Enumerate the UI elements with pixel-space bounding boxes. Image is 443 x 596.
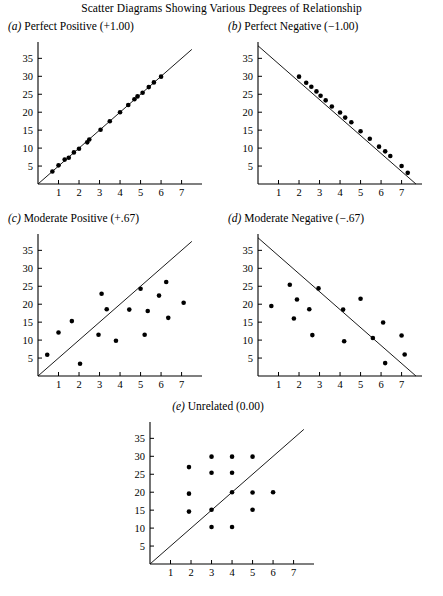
x-tick-label: 6: [158, 379, 163, 390]
reference-line: [150, 429, 304, 564]
data-point: [157, 293, 162, 298]
data-point: [118, 110, 123, 115]
x-tick-label: 2: [76, 379, 81, 390]
data-point: [187, 491, 192, 496]
x-tick-label: 1: [276, 187, 281, 198]
y-tick-label: 15: [23, 317, 34, 328]
y-tick-label: 25: [243, 89, 254, 100]
scatter-plot-b: 12345675101520253035: [228, 32, 424, 202]
data-point: [187, 509, 192, 514]
data-point: [381, 320, 386, 325]
x-tick-label: 6: [158, 187, 163, 198]
data-point: [209, 525, 214, 530]
data-point: [388, 154, 393, 159]
y-tick-label: 15: [243, 317, 254, 328]
reference-line: [38, 49, 192, 184]
data-point: [56, 330, 61, 335]
data-point: [342, 339, 347, 344]
y-tick-label: 20: [243, 107, 254, 118]
x-tick-label: 5: [358, 379, 363, 390]
data-point: [269, 304, 274, 309]
data-point: [159, 74, 164, 79]
data-point: [383, 361, 388, 366]
panel-label-c: (c) Moderate Positive (+.67): [8, 212, 204, 224]
data-point: [66, 155, 71, 160]
data-point: [107, 119, 112, 124]
x-tick-label: 4: [117, 379, 123, 390]
panel-letter-e: (e): [172, 400, 185, 412]
scatter-plot-e: 12345675101520253035: [120, 412, 316, 582]
x-tick-label: 7: [179, 187, 184, 198]
y-tick-label: 35: [23, 245, 34, 256]
data-point: [50, 169, 55, 174]
y-tick-label: 30: [243, 71, 254, 82]
x-tick-label: 2: [296, 187, 301, 198]
data-point: [309, 84, 314, 89]
panel-label-e: (e) Unrelated (0.00): [120, 400, 316, 412]
data-point: [166, 316, 171, 321]
data-point: [250, 490, 255, 495]
y-tick-label: 20: [135, 487, 146, 498]
y-tick-label: 25: [135, 469, 146, 480]
y-tick-label: 15: [135, 505, 146, 516]
x-tick-label: 4: [337, 379, 343, 390]
data-point: [45, 353, 50, 358]
data-point: [377, 144, 382, 149]
data-point: [140, 91, 145, 96]
y-tick-label: 5: [140, 541, 145, 552]
x-tick-label: 3: [97, 187, 102, 198]
y-tick-label: 20: [23, 299, 34, 310]
data-point: [338, 110, 343, 115]
data-point: [230, 525, 235, 530]
y-tick-label: 35: [135, 433, 146, 444]
data-point: [330, 104, 335, 109]
x-tick-label: 7: [291, 567, 296, 578]
scatter-svg: 12345675101520253035: [228, 32, 424, 202]
data-point: [230, 454, 235, 459]
panel-label-d: (d) Moderate Negative (−.67): [228, 212, 424, 224]
panel-label-a: (a) Perfect Positive (+1.00): [8, 20, 204, 32]
x-tick-label: 6: [378, 379, 383, 390]
scatter-svg: 12345675101520253035: [120, 412, 316, 582]
y-tick-label: 25: [23, 89, 34, 100]
data-point: [358, 129, 363, 134]
data-point: [310, 333, 315, 338]
data-point: [142, 332, 147, 337]
data-point: [349, 120, 354, 125]
x-tick-label: 3: [97, 379, 102, 390]
data-point: [367, 136, 372, 141]
data-point: [297, 74, 302, 79]
y-tick-label: 35: [243, 245, 254, 256]
data-point: [307, 307, 312, 312]
panel-moderate-positive: (c) Moderate Positive (+.67) 12345675101…: [8, 212, 204, 394]
data-point: [323, 98, 328, 103]
x-tick-label: 7: [399, 379, 404, 390]
panel-moderate-negative: (d) Moderate Negative (−.67) 12345675101…: [228, 212, 424, 394]
x-tick-label: 3: [317, 187, 322, 198]
reference-line: [258, 46, 416, 184]
x-tick-label: 2: [188, 567, 193, 578]
y-tick-label: 20: [243, 299, 254, 310]
panel-letter-c: (c): [8, 212, 21, 224]
data-point: [292, 316, 297, 321]
x-tick-label: 1: [56, 187, 61, 198]
y-tick-label: 25: [243, 281, 254, 292]
panel-title-c: Moderate Positive (+.67): [24, 212, 139, 224]
y-tick-label: 5: [248, 161, 253, 172]
data-point: [98, 127, 103, 132]
panel-perfect-positive: (a) Perfect Positive (+1.00) 12345675101…: [8, 20, 204, 202]
x-tick-label: 5: [250, 567, 255, 578]
data-point: [316, 286, 321, 291]
y-tick-label: 15: [243, 125, 254, 136]
data-point: [127, 307, 132, 312]
x-tick-label: 5: [138, 187, 143, 198]
data-point: [250, 507, 255, 512]
data-point: [70, 319, 75, 324]
data-point: [181, 300, 186, 305]
data-point: [399, 164, 404, 169]
scatter-svg: 12345675101520253035: [8, 224, 204, 394]
panel-perfect-negative: (b) Perfect Negative (−1.00) 12345675101…: [228, 20, 424, 202]
panel-letter-a: (a): [8, 20, 21, 32]
panel-unrelated: (e) Unrelated (0.00) 1234567510152025303…: [120, 400, 316, 582]
x-tick-label: 3: [317, 379, 322, 390]
